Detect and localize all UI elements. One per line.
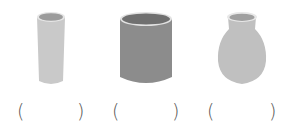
vase-image — [215, 11, 269, 87]
answer-3-blank[interactable] — [220, 101, 265, 121]
answer-3-close-paren: ) — [269, 101, 276, 121]
answer-1-blank[interactable] — [30, 101, 75, 121]
cylinder-cup-image — [118, 11, 174, 87]
answer-1-close-paren: ) — [77, 101, 84, 121]
answer-2-close-paren: ) — [172, 101, 179, 121]
answer-3-open-paren: ( — [207, 101, 214, 121]
answer-1-open-paren: ( — [17, 101, 24, 121]
tall-glass-image — [34, 11, 68, 87]
answer-2-blank[interactable] — [125, 101, 170, 121]
answer-2-open-paren: ( — [112, 101, 119, 121]
